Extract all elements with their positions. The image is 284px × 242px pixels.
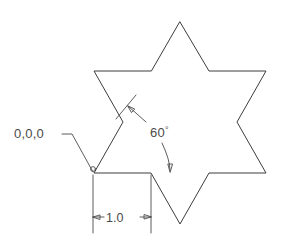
cad-drawing-svg: 0,0,0 60° 1.0 (0, 0, 284, 242)
linear-dimension-group: 1.0 (93, 175, 151, 233)
angle-value-text: 60 (150, 125, 165, 140)
origin-coordinate-label: 0,0,0 (14, 126, 44, 141)
angle-annotation-group: 60° (116, 95, 172, 172)
angle-extension-tick (116, 95, 136, 119)
technical-drawing-canvas: 0,0,0 60° 1.0 (0, 0, 284, 242)
angle-dimension-label: 60° (150, 125, 169, 140)
star-outline-group (94, 22, 266, 224)
hexagram-star-outline (94, 22, 266, 224)
origin-leader-line (62, 134, 93, 172)
origin-annotation-group: 0,0,0 (14, 126, 95, 172)
linear-dimension-label: 1.0 (106, 211, 123, 225)
angle-leader-upper (128, 106, 146, 122)
degree-symbol: ° (165, 125, 169, 135)
